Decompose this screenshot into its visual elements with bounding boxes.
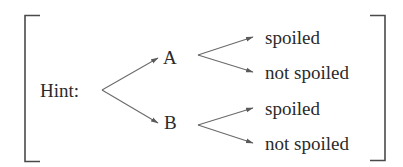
arrow-b-spoiled bbox=[198, 108, 253, 125]
arrow-a-spoiled bbox=[198, 37, 253, 55]
leaf-a-spoiled: spoiled bbox=[265, 27, 320, 48]
arrow-b-not-spoiled bbox=[198, 125, 253, 143]
node-b-label: B bbox=[164, 112, 177, 133]
arrow-a-not-spoiled bbox=[198, 55, 253, 72]
arrow-to-a bbox=[102, 58, 158, 90]
leaf-b-not-spoiled: not spoiled bbox=[265, 133, 349, 154]
left-bracket bbox=[25, 16, 40, 162]
root-branch bbox=[102, 58, 158, 123]
arrow-to-b bbox=[102, 90, 158, 123]
node-a-label: A bbox=[163, 47, 177, 68]
hint-tree-diagram: Hint: A B spoiled not spoiled spoiled no… bbox=[0, 0, 403, 167]
branch-b bbox=[198, 108, 253, 143]
tree-diagram-svg: Hint: A B spoiled not spoiled spoiled no… bbox=[0, 0, 403, 167]
root-label: Hint: bbox=[40, 80, 79, 101]
right-bracket bbox=[370, 16, 385, 161]
leaf-a-not-spoiled: not spoiled bbox=[265, 62, 349, 83]
branch-a bbox=[198, 37, 253, 72]
leaf-b-spoiled: spoiled bbox=[265, 98, 320, 119]
